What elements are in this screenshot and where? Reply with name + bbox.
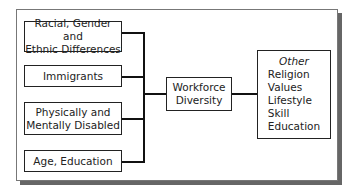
other-item: Education xyxy=(268,120,320,133)
box-label: Mentally Disabled xyxy=(26,119,120,132)
connector xyxy=(231,93,258,95)
box-other: Other Religion Values Lifestyle Skill Ed… xyxy=(257,50,331,139)
connector xyxy=(122,161,145,163)
other-item: Religion xyxy=(268,68,320,81)
other-heading: Other xyxy=(279,55,309,68)
connector-vertical xyxy=(143,32,145,163)
box-label: Diversity xyxy=(176,94,223,107)
connector xyxy=(122,76,145,78)
other-item: Skill xyxy=(268,107,320,120)
box-racial-gender-ethnic: Racial, Gender and Ethnic Differences xyxy=(24,21,122,52)
box-label: Ethnic Differences xyxy=(25,43,121,56)
other-item: Values xyxy=(268,81,320,94)
box-immigrants: Immigrants xyxy=(24,65,122,87)
box-age-education: Age, Education xyxy=(24,150,122,172)
box-label: Physically and xyxy=(36,106,111,119)
other-list: Religion Values Lifestyle Skill Educatio… xyxy=(268,68,320,133)
box-label: Racial, Gender and xyxy=(25,17,121,43)
box-label: Age, Education xyxy=(33,155,112,168)
other-item: Lifestyle xyxy=(268,94,320,107)
connector xyxy=(122,32,145,34)
box-workforce-diversity: Workforce Diversity xyxy=(166,77,232,111)
box-label: Immigrants xyxy=(43,70,103,83)
connector xyxy=(143,93,167,95)
connector xyxy=(122,118,145,120)
box-physically-mentally-disabled: Physically and Mentally Disabled xyxy=(24,102,122,135)
box-label: Workforce xyxy=(172,81,225,94)
